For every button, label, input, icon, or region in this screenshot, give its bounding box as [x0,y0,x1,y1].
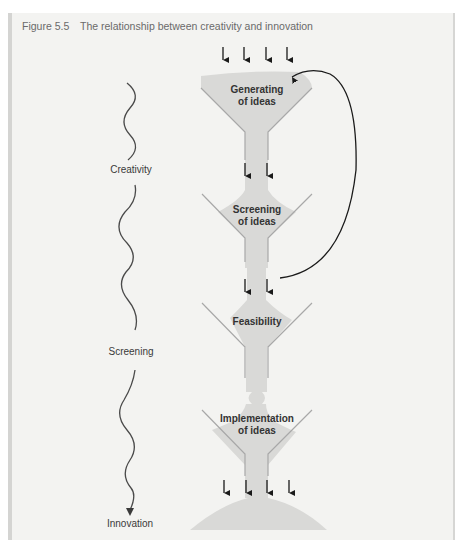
flow-fill [190,72,327,531]
stage-label-screening: Screening [108,346,153,357]
funnel-label-screening: Screening of ideas [207,204,307,228]
stage-label-innovation: Innovation [107,518,153,529]
funnel-label-implementation: Implementation of ideas [207,413,307,437]
funnel-label-generating: Generating of ideas [207,84,307,108]
timeline-arrow-icon [126,508,134,516]
stage-label-creativity: Creativity [110,164,152,175]
funnel-diagram [0,0,461,553]
stage-timeline [119,83,137,510]
funnel-label-feasibility: Feasibility [207,316,307,328]
